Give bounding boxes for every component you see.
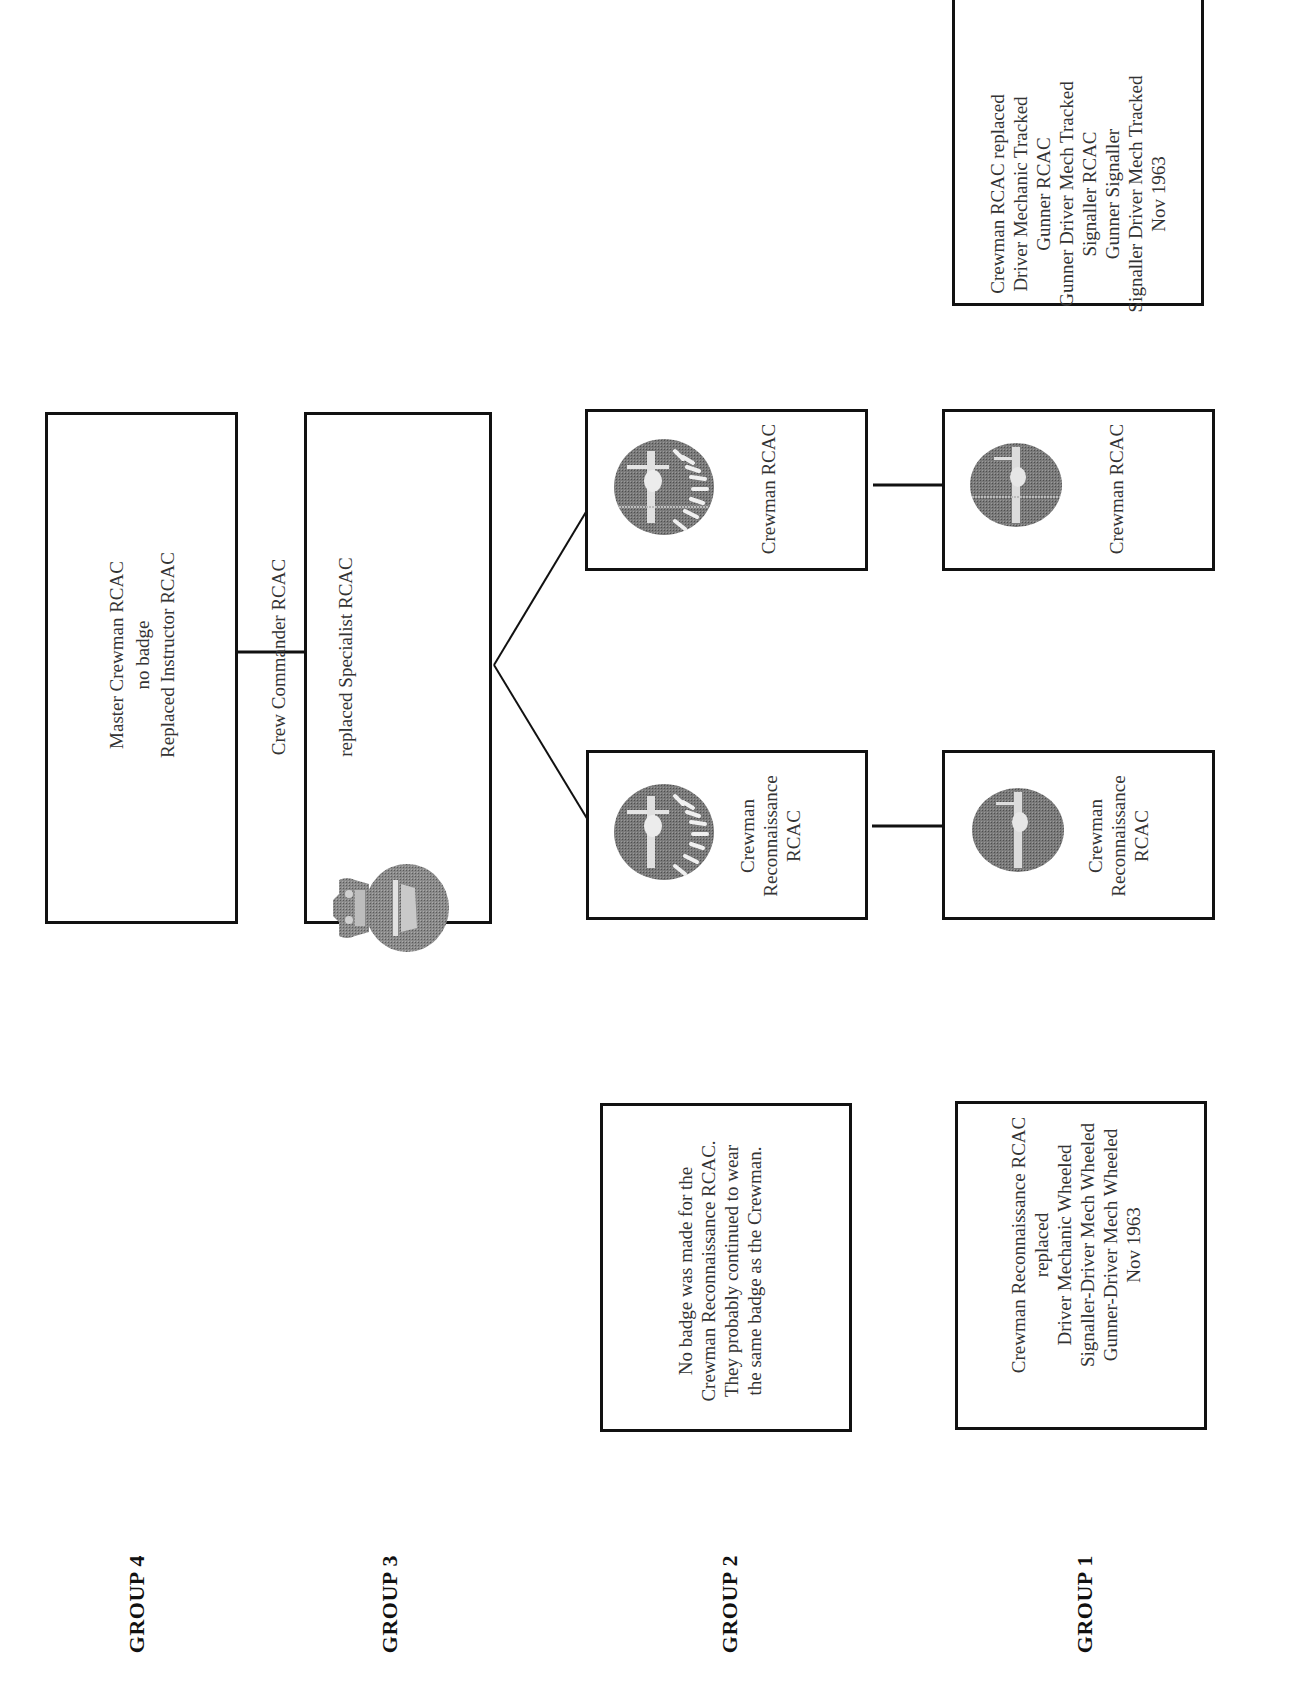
group1-tracked-note-lines: Crewman RCAC replaced Driver Mechanic Tr… <box>980 38 1176 350</box>
tracked-note-line-6: Gunner Signaller <box>1101 129 1124 259</box>
master-crewman-no-badge: no badge <box>131 620 154 689</box>
group2-note-text: No badge was made for the Crewman Reconn… <box>670 1118 770 1418</box>
tracked-note-line-5: Signaller RCAC <box>1078 131 1101 256</box>
group2-crewman-title: Crewman RCAC <box>757 419 783 559</box>
connector-g3-g2-recce <box>494 665 594 830</box>
master-crewman-title: Master Crewman RCAC <box>105 561 128 749</box>
tank-badge-icon <box>970 786 1066 874</box>
group3-crew-commander-text: Crew Commander RCAC replaced Specialist … <box>267 457 357 857</box>
tracked-note-line-3: Gunner RCAC <box>1032 137 1055 250</box>
tank-laurel-badge-icon <box>613 437 715 537</box>
tracked-note-line-4: Gunner Driver Mech Tracked <box>1055 81 1078 306</box>
crew-commander-replaced: replaced Specialist RCAC <box>334 557 357 756</box>
tank-laurel-badge-icon <box>613 782 715 882</box>
master-crewman-replaced: Replaced Instructor RCAC <box>156 552 179 758</box>
group1-note-text: Crewman Reconnaissance RCAC replaced Dri… <box>1001 1125 1151 1425</box>
group1-crewman-recce-text: Crewman Reconnaissance RCAC <box>1082 766 1154 906</box>
group3-label: GROUP 3 <box>377 1549 403 1659</box>
group4-label: GROUP 4 <box>124 1549 150 1659</box>
group4-master-crewman-text: Master Crewman RCAC no badge Replaced In… <box>77 399 207 911</box>
tracked-note-line-7: Signaller Driver Mech Tracked <box>1124 76 1147 313</box>
group2-label: GROUP 2 <box>717 1549 743 1659</box>
tank-badge-icon <box>968 441 1064 529</box>
connector-g3-g2-crewman <box>494 497 595 665</box>
tracked-note-line-2: Driver Mechanic Tracked <box>1009 96 1032 291</box>
crown-tank-badge-icon <box>325 858 455 958</box>
tracked-note-line-8: Nov 1963 <box>1147 156 1170 231</box>
group1-crewman-title: Crewman RCAC <box>1105 419 1131 559</box>
crew-commander-title: Crew Commander RCAC <box>267 559 290 755</box>
group2-crewman-recce-text: Crewman Reconnaissance RCAC <box>734 766 806 906</box>
tracked-note-line-1: Crewman RCAC replaced <box>986 94 1009 293</box>
group1-label: GROUP 1 <box>1072 1549 1098 1659</box>
